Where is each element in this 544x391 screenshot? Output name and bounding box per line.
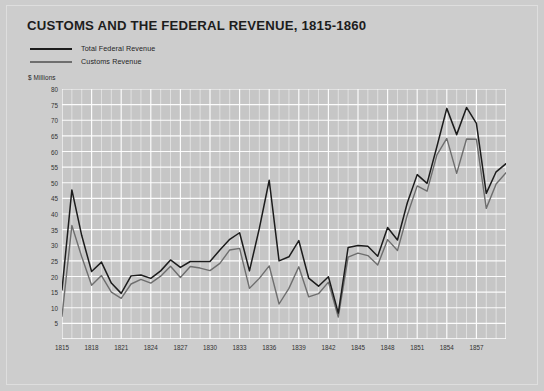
y-axis-tick-label: 15 <box>51 289 58 296</box>
y-axis-tick-label: 65 <box>51 132 58 139</box>
x-axis-tick-label: 1830 <box>203 344 217 351</box>
y-axis-tick-label: 75 <box>51 101 58 108</box>
x-axis-tick-label: 1815 <box>55 344 69 351</box>
chart-figure: CUSTOMS AND THE FEDERAL REVENUE, 1815-18… <box>0 0 544 391</box>
x-axis-tick-label: 1851 <box>410 344 424 351</box>
x-axis-tick-label: 1836 <box>262 344 276 351</box>
legend-swatch-icon-customs-revenue <box>30 61 72 63</box>
x-axis-tick-label: 1824 <box>144 344 158 351</box>
x-axis-tick-label: 1839 <box>292 344 306 351</box>
legend-label-total-federal-revenue: Total Federal Revenue <box>81 44 155 53</box>
y-axis-tick-label: 10 <box>51 304 58 311</box>
x-axis-tick-label: 1848 <box>381 344 395 351</box>
y-axis-tick-label: 45 <box>51 195 58 202</box>
legend-swatch-icon-total-federal-revenue <box>30 48 72 50</box>
series-line-total-federal-revenue <box>62 107 506 313</box>
series-line-customs-revenue <box>62 138 506 317</box>
x-axis-tick-label: 1845 <box>351 344 365 351</box>
y-axis-tick-label: 40 <box>51 211 58 218</box>
y-axis-tick-label: 50 <box>51 179 58 186</box>
y-axis-tick-label: 80 <box>51 86 58 93</box>
plot-svg <box>62 89 506 339</box>
x-axis-tick-label: 1821 <box>114 344 128 351</box>
x-axis-tick-label: 1827 <box>173 344 187 351</box>
legend-item-total-federal-revenue: Total Federal Revenue <box>30 42 155 55</box>
y-axis-tick-label: 70 <box>51 117 58 124</box>
y-axis-tick-label: 20 <box>51 273 58 280</box>
legend-label-customs-revenue: Customs Revenue <box>81 57 142 66</box>
y-axis-tick-label: 25 <box>51 257 58 264</box>
x-axis-tick-label: 1842 <box>321 344 335 351</box>
y-axis-tick-label: 60 <box>51 148 58 155</box>
page-title: CUSTOMS AND THE FEDERAL REVENUE, 1815-18… <box>27 18 366 33</box>
chart-legend: Total Federal Revenue Customs Revenue <box>30 42 155 68</box>
x-axis-tick-label: 1854 <box>440 344 454 351</box>
x-axis-tick-label: 1818 <box>85 344 99 351</box>
y-axis-tick-label: 55 <box>51 164 58 171</box>
x-axis-tick-label: 1857 <box>469 344 483 351</box>
y-axis-tick-label: 30 <box>51 242 58 249</box>
y-axis-units-label: $ Millions <box>28 74 56 81</box>
x-axis-tick-label: 1833 <box>233 344 247 351</box>
y-axis-tick-label: 35 <box>51 226 58 233</box>
plot-wrapper: 5101520253035404550556065707580181518181… <box>62 89 506 339</box>
y-axis-tick-label: 5 <box>54 320 58 327</box>
legend-item-customs-revenue: Customs Revenue <box>30 55 155 68</box>
